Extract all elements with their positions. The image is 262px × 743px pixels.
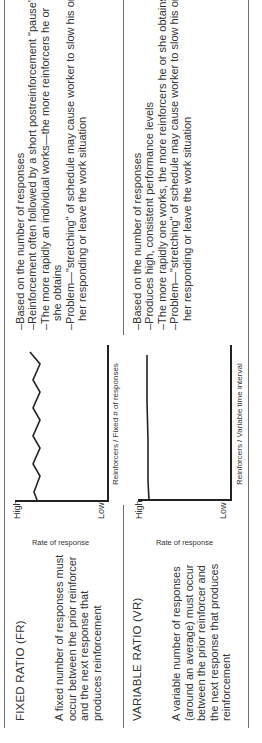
fr-bullet: –Reinforcement often followed by a short… (26, 0, 38, 330)
fr-y-axis-label: Rate of response (32, 538, 89, 547)
vr-bullet: –Problem—"stretching" of schedule may ca… (168, 0, 193, 330)
vr-y-high: High (134, 500, 144, 519)
fr-bullet: –The more rapidly an individual works—th… (39, 0, 64, 330)
bottom-rule (248, 0, 249, 728)
fr-definition: A fixed number of responses must occur b… (53, 551, 103, 721)
vr-y-axis-label: Rate of response (156, 538, 213, 547)
fr-y-high: High (12, 500, 22, 519)
vr-bullet: –Based on the number of responses (131, 0, 143, 330)
fr-bullet-list: –Based on the number of responses –Reinf… (14, 0, 88, 330)
fr-sawtooth-line (0, 342, 110, 502)
row-divider-right (123, 0, 124, 335)
fr-x-axis-label: Reinforcers / Fixed # of responses (111, 363, 120, 485)
vr-y-low: Low (218, 502, 228, 519)
vr-bullet: –Produces high, consistent performance l… (143, 0, 155, 330)
vr-definition: A variable number of responses (around a… (170, 551, 233, 721)
rotated-page: FIXED RATIO (FR) A fixed number of respo… (0, 0, 262, 743)
row-divider-left (123, 505, 124, 728)
vr-title: VARIABLE RATIO (VR) (131, 597, 143, 721)
fr-bullet: –Problem—"stretching" of schedule may ca… (64, 0, 89, 330)
vr-bullet-list: –Based on the number of responses –Produ… (131, 0, 193, 330)
fr-title: FIXED RATIO (FR) (14, 620, 26, 721)
vr-flat-line (130, 341, 240, 501)
vr-bullet: –The more rapidly one works, the more re… (156, 0, 168, 330)
fr-bullet: –Based on the number of responses (14, 0, 26, 330)
fr-y-low: Low (96, 502, 106, 519)
